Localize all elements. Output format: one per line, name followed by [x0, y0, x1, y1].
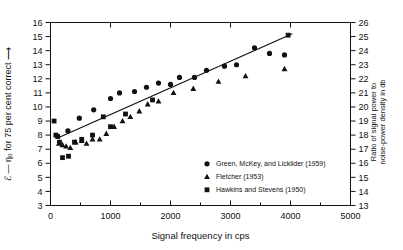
legend-label: Green, McKey, and Licklider (1959)	[216, 160, 326, 168]
data-point-circle	[77, 116, 82, 121]
data-point-circle	[108, 96, 113, 101]
data-point-circle	[267, 51, 272, 56]
data-point-triangle	[84, 140, 90, 145]
x-axis-tick-labels: 010002000300040005000	[48, 211, 361, 221]
y-tick-label-left: 3	[37, 201, 42, 211]
data-point-triangle	[190, 86, 196, 91]
y-tick-label-left: 7	[37, 144, 42, 154]
y-tick-label-right: 19	[359, 116, 369, 126]
y-tick-label-left: 11	[33, 88, 42, 98]
y-tick-label-right: 20	[359, 102, 369, 112]
plot-area-border	[51, 23, 351, 206]
series-square	[52, 33, 291, 160]
trend-line	[58, 34, 293, 138]
data-point-square	[72, 140, 77, 145]
data-point-square	[52, 119, 57, 124]
data-point-triangle	[156, 98, 162, 103]
x-tick-label: 3000	[220, 211, 240, 221]
y-axis-right-title-line: Ratio of signal power to	[369, 83, 378, 161]
y-tick-label-left: 15	[32, 32, 42, 42]
x-axis-ticks	[51, 23, 351, 206]
data-point-triangle	[282, 66, 288, 71]
y-axis-left-tick-labels: 345678910111213141516	[32, 18, 42, 211]
y-tick-label-right: 18	[359, 130, 369, 140]
figure-container: 010002000300040005000 345678910111213141…	[0, 0, 403, 250]
y-tick-label-left: 14	[32, 46, 42, 56]
data-point-circle	[168, 82, 173, 87]
legend-marker-circle	[204, 161, 209, 166]
legend-label: Hawkins and Stevens (1950)	[216, 186, 306, 194]
y-tick-label-left: 12	[32, 74, 42, 84]
y-axis-left-title: ℰ — η₀ for 75 per cent correct ⟶	[3, 47, 13, 181]
data-point-square	[108, 124, 113, 129]
y-tick-label-right: 17	[359, 144, 369, 154]
y-tick-label-left: 6	[37, 158, 42, 168]
y-axis-right-title-line: noise-power density in db	[378, 79, 387, 164]
data-point-square	[60, 155, 65, 160]
data-point-square	[123, 112, 128, 117]
legend-label: Fletcher (1953)	[216, 173, 263, 181]
data-point-markers	[52, 33, 291, 160]
data-point-circle	[282, 52, 287, 57]
x-tick-label: 2000	[160, 211, 180, 221]
data-point-triangle	[171, 90, 177, 95]
y-axis-right-tick-labels: 1314151617181920212223242526	[359, 18, 369, 211]
legend: Green, McKey, and Licklider (1959)Fletch…	[204, 160, 326, 194]
y-tick-label-left: 13	[32, 60, 42, 70]
y-tick-label-right: 13	[359, 201, 369, 211]
y-tick-label-left: 16	[32, 18, 42, 28]
y-tick-label-left: 8	[37, 130, 42, 140]
data-point-triangle	[120, 118, 126, 123]
data-point-triangle	[136, 108, 142, 113]
y-tick-label-left: 9	[37, 116, 42, 126]
x-tick-label: 5000	[340, 211, 360, 221]
data-point-triangle	[127, 114, 133, 119]
data-point-circle	[91, 107, 96, 112]
data-point-circle	[144, 85, 149, 90]
y-tick-label-left: 10	[32, 102, 42, 112]
data-point-triangle	[145, 101, 151, 106]
data-point-circle	[117, 90, 122, 95]
legend-marker-triangle	[204, 174, 210, 179]
data-point-circle	[177, 75, 182, 80]
data-point-square	[79, 137, 84, 142]
y-tick-label-right: 15	[359, 173, 369, 183]
y-tick-label-right: 26	[359, 18, 369, 28]
data-point-triangle	[103, 131, 109, 136]
x-tick-label: 1000	[100, 211, 120, 221]
data-point-triangle	[97, 136, 103, 141]
data-point-triangle	[243, 73, 249, 78]
y-axis-left-ticks	[46, 23, 51, 206]
trend-line-segment	[58, 34, 293, 138]
x-tick-label: 4000	[280, 211, 300, 221]
data-point-square	[55, 134, 60, 139]
data-point-square	[57, 140, 62, 145]
legend-marker-square	[205, 187, 210, 192]
chart-canvas: 010002000300040005000 345678910111213141…	[0, 0, 403, 250]
data-point-square	[150, 98, 155, 103]
y-tick-label-right: 22	[359, 74, 369, 84]
y-tick-label-right: 23	[359, 60, 369, 70]
x-tick-label: 0	[48, 211, 53, 221]
y-tick-label-right: 25	[359, 32, 369, 42]
x-axis-title: Signal frequency in cps	[151, 230, 249, 241]
y-tick-label-left: 4	[37, 187, 42, 197]
data-point-triangle	[216, 79, 222, 84]
data-point-square	[90, 133, 95, 138]
data-point-square	[66, 154, 71, 159]
y-tick-label-right: 21	[359, 88, 369, 98]
data-point-circle	[234, 62, 239, 67]
data-point-circle	[156, 80, 161, 85]
y-axis-right-title: Ratio of signal power tonoise-power dens…	[369, 79, 387, 164]
y-tick-label-left: 5	[37, 173, 42, 183]
y-tick-label-right: 24	[359, 46, 369, 56]
plot-frame	[51, 23, 351, 206]
y-tick-label-right: 16	[359, 158, 369, 168]
y-axis-right-ticks	[351, 23, 356, 206]
y-tick-label-right: 14	[359, 187, 369, 197]
data-point-circle	[132, 89, 137, 94]
